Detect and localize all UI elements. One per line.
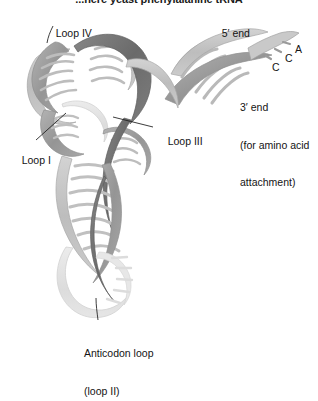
label-loop-iv-text: Loop IV <box>56 27 92 39</box>
figure-title: ...here yeast phenylalanine tRNA <box>0 0 318 5</box>
label-three-prime-end-line1: 3′ end <box>240 101 309 114</box>
label-loop-iv: Loop IV <box>44 14 92 52</box>
label-anticodon-loop: Anticodon loop (loop II) <box>84 322 153 401</box>
label-loop-iii: Loop III <box>156 122 203 160</box>
label-three-prime-end-line3: attachment) <box>240 176 309 189</box>
label-loop-i-text: Loop I <box>22 154 51 166</box>
label-three-prime-end: 3′ end (for amino acid attachment) <box>240 76 309 214</box>
t-loop-rungs <box>90 47 124 83</box>
nucleotide-label-c2: C <box>272 62 280 73</box>
label-loop-i: Loop I <box>10 141 51 179</box>
label-anticodon-loop-line1: Anticodon loop <box>84 347 153 360</box>
label-five-prime-end-text: 5′ end <box>222 27 250 39</box>
nucleotide-label-c1: C <box>285 53 293 64</box>
nucleotide-label-a: A <box>295 44 302 55</box>
label-five-prime-end: 5′ end <box>210 14 250 52</box>
label-anticodon-loop-line2: (loop II) <box>84 385 153 398</box>
label-loop-iii-text: Loop III <box>168 135 203 147</box>
label-three-prime-end-line2: (for amino acid <box>240 139 309 152</box>
